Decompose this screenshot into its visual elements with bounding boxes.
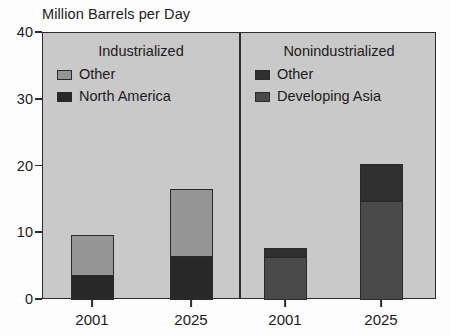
y-tick-mark bbox=[35, 98, 42, 100]
legend-swatch-other-icon bbox=[255, 70, 270, 80]
bar-industrialized-2025 bbox=[170, 189, 213, 300]
panel-header-industrialized: Industrialized bbox=[98, 43, 183, 59]
bar-segment-other bbox=[72, 236, 113, 279]
legend-item: Developing Asia bbox=[255, 89, 381, 104]
panel-header-nonindustrialized: Nonindustrialized bbox=[283, 43, 394, 59]
y-tick-label: 30 bbox=[17, 91, 33, 107]
legend-swatch-developing-asia-icon bbox=[255, 92, 270, 102]
legend-swatch-north-america-icon bbox=[57, 92, 72, 102]
y-tick-label: 20 bbox=[17, 158, 33, 174]
legend-label: North America bbox=[79, 89, 171, 104]
legend-item: Other bbox=[57, 67, 171, 82]
y-tick-mark bbox=[35, 165, 42, 167]
bar-segment-north-america bbox=[72, 276, 113, 299]
bar-industrialized-2001 bbox=[71, 235, 114, 300]
bar-segment-developing-asia bbox=[361, 202, 402, 299]
y-axis: 40 30 20 10 0 bbox=[0, 32, 42, 299]
x-tick-label: 2025 bbox=[174, 311, 207, 328]
bar-nonindustrialized-2001 bbox=[264, 248, 307, 300]
x-axis: 2001 2025 2001 2025 bbox=[42, 299, 436, 335]
bar-segment-north-america bbox=[171, 258, 212, 299]
x-tick-mark bbox=[380, 299, 382, 307]
bar-segment-other bbox=[361, 165, 402, 204]
plot-area: Industrialized Nonindustrialized Other N… bbox=[42, 32, 436, 299]
legend-label: Other bbox=[277, 67, 313, 82]
plot-inner: Industrialized Nonindustrialized Other N… bbox=[43, 33, 435, 298]
legend-nonindustrialized: Other Developing Asia bbox=[255, 67, 381, 111]
legend-label: Developing Asia bbox=[277, 89, 381, 104]
bar-nonindustrialized-2025 bbox=[360, 164, 403, 300]
bar-segment-other bbox=[171, 190, 212, 259]
stacked-bar-chart: Million Barrels per Day 40 30 20 10 0 In… bbox=[0, 0, 450, 335]
legend-item: North America bbox=[57, 89, 171, 104]
legend-swatch-other-icon bbox=[57, 70, 72, 80]
panel-divider bbox=[239, 33, 241, 298]
y-tick-label: 10 bbox=[17, 224, 33, 240]
legend-item: Other bbox=[255, 67, 381, 82]
chart-title: Million Barrels per Day bbox=[42, 6, 190, 22]
y-tick-mark bbox=[35, 298, 42, 300]
x-tick-label: 2001 bbox=[268, 311, 301, 328]
x-tick-label: 2001 bbox=[75, 311, 108, 328]
bar-segment-divider bbox=[171, 256, 212, 258]
legend-industrialized: Other North America bbox=[57, 67, 171, 111]
bar-segment-divider bbox=[361, 200, 402, 202]
bar-segment-divider bbox=[72, 275, 113, 277]
legend-label: Other bbox=[79, 67, 115, 82]
bar-segment-developing-asia bbox=[265, 258, 306, 299]
y-tick-label: 0 bbox=[25, 291, 33, 307]
y-tick-label: 40 bbox=[17, 24, 33, 40]
y-tick-mark bbox=[35, 31, 42, 33]
x-tick-mark bbox=[190, 299, 192, 307]
x-tick-label: 2025 bbox=[364, 311, 397, 328]
x-tick-mark bbox=[284, 299, 286, 307]
x-tick-mark bbox=[91, 299, 93, 307]
y-tick-mark bbox=[35, 231, 42, 233]
bar-segment-divider bbox=[265, 256, 306, 258]
